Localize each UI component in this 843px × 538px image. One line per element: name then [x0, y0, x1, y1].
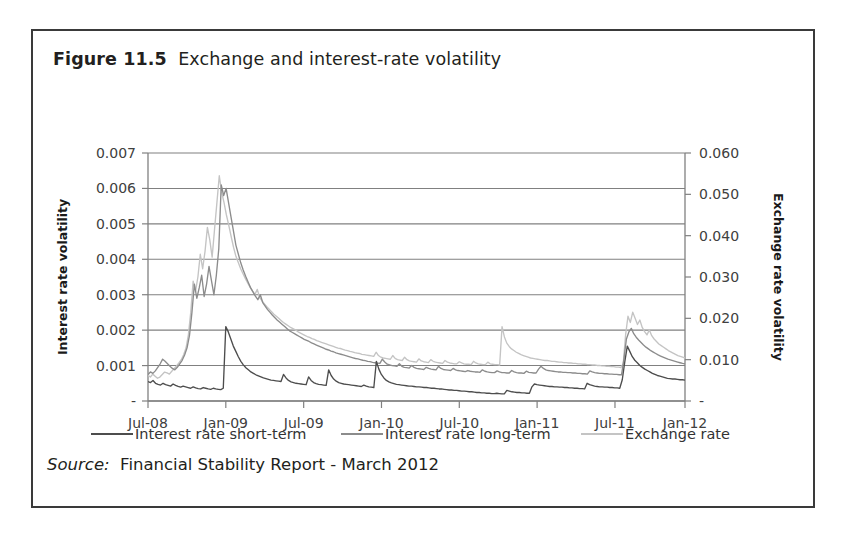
left-axis-tick-label: 0.006: [96, 180, 136, 196]
right-axis-tick-label: 0.040: [699, 228, 739, 244]
left-axis-tick-label: 0.001: [96, 358, 136, 374]
series-line: [148, 185, 685, 375]
left-axis-title: Interest rate volatility: [55, 199, 70, 355]
right-axis-tick-label: 0.030: [699, 269, 739, 285]
figure-number: Figure 11.5: [53, 49, 167, 69]
chart-canvas: -0.0010.0020.0030.0040.0050.0060.007-0.0…: [33, 91, 813, 451]
left-axis-tick-label: 0.005: [96, 216, 136, 232]
series-line: [148, 327, 685, 394]
source-text: Financial Stability Report - March 2012: [120, 455, 439, 474]
figure-title: Figure 11.5 Exchange and interest-rate v…: [53, 49, 501, 69]
source-line: Source: Financial Stability Report - Mar…: [47, 455, 439, 474]
right-axis-tick-label: 0.010: [699, 352, 739, 368]
right-axis-tick-label: 0.050: [699, 186, 739, 202]
right-axis-title: Exchange rate volatility: [771, 193, 786, 361]
legend-label: Interest rate long-term: [385, 426, 551, 442]
legend-label: Interest rate short-term: [135, 426, 306, 442]
left-axis-tick-label: 0.007: [96, 145, 136, 161]
figure-box: Figure 11.5 Exchange and interest-rate v…: [31, 29, 815, 508]
source-keyword: Source:: [47, 455, 110, 474]
left-axis-tick-label: -: [131, 393, 136, 409]
figure-caption: Exchange and interest-rate volatility: [178, 49, 501, 69]
left-axis-tick-label: 0.002: [96, 322, 136, 338]
left-axis-tick-label: 0.003: [96, 287, 136, 303]
volatility-line-chart: -0.0010.0020.0030.0040.0050.0060.007-0.0…: [33, 91, 813, 451]
right-axis-tick-label: 0.060: [699, 145, 739, 161]
right-axis-tick-label: -: [699, 393, 704, 409]
legend-label: Exchange rate: [625, 426, 730, 442]
left-axis-tick-label: 0.004: [96, 251, 136, 267]
right-axis-tick-label: 0.020: [699, 310, 739, 326]
